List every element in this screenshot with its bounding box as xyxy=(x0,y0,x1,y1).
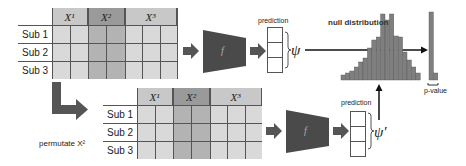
arrow-right-icon xyxy=(250,43,266,59)
arrow-up-icon xyxy=(376,84,383,91)
model-trapezoid-icon xyxy=(286,110,329,153)
pvalue-label: p-value xyxy=(424,87,447,94)
arrow-head-icon xyxy=(421,47,428,54)
null-distribution-label: null distribution xyxy=(328,18,388,27)
arrow-right-icon xyxy=(266,123,282,139)
permutate-arrow-icon xyxy=(52,82,88,120)
prediction-label-bottom: prediction xyxy=(341,99,371,106)
prediction-vector-top xyxy=(268,28,283,73)
model-trapezoid-icon xyxy=(203,30,246,73)
arrow-right-icon xyxy=(183,43,199,59)
arrow-right-icon xyxy=(333,123,349,139)
prediction-vector-bottom xyxy=(351,112,366,157)
permutate-label: permutate X² xyxy=(39,139,85,148)
model-label-bottom: f xyxy=(304,125,307,136)
prediction-label-top: prediction xyxy=(258,17,288,24)
psi-symbol: ψ xyxy=(291,42,300,59)
model-label-top: f xyxy=(221,45,224,56)
pvalue-bracket-icon xyxy=(428,83,438,85)
psi-prime-symbol: ψ′ xyxy=(374,124,387,141)
